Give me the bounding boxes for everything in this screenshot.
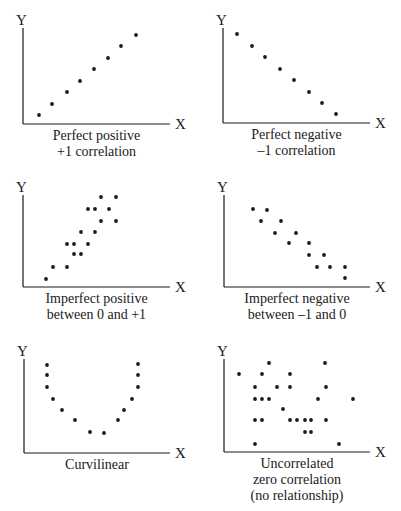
panel-caption: Perfect positive+1 correlation	[18, 128, 175, 160]
data-point	[337, 442, 341, 446]
data-point	[309, 418, 313, 422]
data-point	[253, 385, 257, 389]
x-axis-label: X	[375, 115, 386, 131]
data-point	[303, 418, 307, 422]
y-axis-label: Y	[217, 343, 228, 359]
data-point	[93, 230, 97, 234]
data-point	[287, 241, 291, 245]
scatter-panel-3: YXImperfect positivebetween 0 and +1	[0, 170, 200, 340]
y-axis-label: Y	[16, 12, 27, 28]
data-point	[267, 361, 271, 365]
scatter-panel-1: YXPerfect positive+1 correlation	[0, 0, 200, 170]
caption-line: –1 correlation	[218, 143, 375, 159]
data-point	[237, 372, 241, 376]
data-point	[119, 44, 123, 48]
scatter-panel-2: YXPerfect negative–1 correlation	[200, 0, 400, 170]
data-point	[288, 385, 292, 389]
data-point	[316, 397, 320, 401]
data-point	[44, 277, 48, 281]
data-point	[88, 430, 92, 434]
caption-line: +1 correlation	[18, 144, 175, 160]
panel-caption: Perfect negative–1 correlation	[218, 127, 375, 159]
data-point	[78, 79, 82, 83]
data-point	[273, 231, 277, 235]
caption-line: between 0 and +1	[18, 307, 175, 323]
data-point	[288, 372, 292, 376]
data-point	[50, 102, 54, 106]
data-point	[259, 219, 263, 223]
data-point	[102, 431, 106, 435]
data-point	[73, 418, 77, 422]
data-point	[328, 265, 332, 269]
data-point	[309, 430, 313, 434]
y-axis-label: Y	[16, 179, 27, 195]
data-point	[307, 253, 311, 257]
scatter-panel-4: YXImperfect negativebetween –1 and 0	[200, 170, 400, 340]
data-point	[99, 219, 103, 223]
data-point	[37, 113, 41, 117]
data-point	[72, 242, 76, 246]
data-point	[343, 276, 347, 280]
data-point	[294, 231, 298, 235]
x-axis-label: X	[175, 445, 186, 461]
caption-line: Imperfect negative	[219, 291, 375, 307]
x-axis-label: X	[375, 444, 386, 460]
data-point	[86, 207, 90, 211]
data-point	[45, 385, 49, 389]
data-point	[322, 253, 326, 257]
data-point	[136, 373, 140, 377]
data-point	[279, 219, 283, 223]
data-point	[295, 418, 299, 422]
data-point	[79, 252, 83, 256]
data-point	[106, 56, 110, 60]
data-point	[324, 418, 328, 422]
data-point	[134, 33, 138, 37]
data-point	[45, 363, 49, 367]
scatter-panel-6: YXUncorrelatedzero correlation(no relati…	[200, 340, 400, 510]
data-point	[281, 407, 285, 411]
data-point	[122, 408, 126, 412]
y-axis-label: Y	[17, 343, 28, 359]
caption-line: zero correlation	[219, 472, 375, 488]
x-axis-label: X	[175, 116, 186, 132]
data-point	[130, 397, 134, 401]
data-point	[260, 372, 264, 376]
data-point	[253, 418, 257, 422]
data-point	[260, 397, 264, 401]
data-point	[65, 242, 69, 246]
panel-caption: Uncorrelatedzero correlation(no relation…	[219, 456, 375, 504]
data-point	[235, 32, 239, 36]
x-axis-label: X	[375, 279, 386, 295]
caption-line: Uncorrelated	[219, 456, 375, 472]
data-point	[92, 67, 96, 71]
data-point	[288, 418, 292, 422]
data-point	[320, 101, 324, 105]
panel-caption: Curvilinear	[19, 457, 175, 473]
data-point	[114, 219, 118, 223]
data-point	[116, 418, 120, 422]
data-point	[72, 252, 76, 256]
data-point	[275, 385, 279, 389]
data-point	[45, 373, 49, 377]
caption-line: (no relationship)	[219, 488, 375, 504]
data-point	[65, 265, 69, 269]
data-point	[278, 67, 282, 71]
data-point	[99, 195, 103, 199]
caption-line: between –1 and 0	[219, 307, 375, 323]
data-point	[303, 430, 307, 434]
data-point	[107, 207, 111, 211]
data-point	[323, 361, 327, 365]
data-point	[114, 195, 118, 199]
caption-line: Curvilinear	[19, 457, 175, 473]
data-point	[51, 265, 55, 269]
data-point	[267, 397, 271, 401]
data-point	[343, 265, 347, 269]
data-point	[351, 397, 355, 401]
data-point	[265, 208, 269, 212]
data-point	[260, 418, 264, 422]
data-point	[51, 397, 55, 401]
scatter-panel-5: YXCurvilinear	[0, 340, 200, 510]
data-point	[136, 362, 140, 366]
data-point	[250, 44, 254, 48]
data-point	[334, 112, 338, 116]
